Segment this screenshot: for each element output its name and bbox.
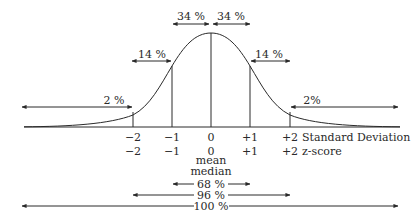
sd-tick-plus-1: +1 <box>242 131 258 144</box>
z-tick-plus-2: +2 <box>282 145 298 158</box>
sd-tick-minus-2: −2 <box>125 131 141 144</box>
coverage-100-label: 100 % <box>194 200 229 213</box>
z-tick-plus-1: +1 <box>242 145 258 158</box>
sd-tick-minus-1: −1 <box>164 131 180 144</box>
normal-distribution-diagram: 34 % 34 % 14 % 14 % 2 % 2% −2 −1 0 +1 +2… <box>0 0 419 224</box>
band-label-mid-left: 14 % <box>138 48 166 61</box>
bell-curve <box>24 33 400 127</box>
band-label-tail-right: 2% <box>303 94 320 107</box>
band-label-center-right: 34 % <box>217 10 245 23</box>
band-label-tail-left: 2 % <box>104 94 125 107</box>
z-tick-minus-2: −2 <box>125 145 141 158</box>
z-score-label: z-score <box>302 145 342 158</box>
median-label: median <box>190 165 231 178</box>
z-tick-minus-1: −1 <box>164 145 180 158</box>
sd-tick-plus-2: +2 <box>282 131 298 144</box>
band-label-mid-right: 14 % <box>255 48 283 61</box>
band-label-center-left: 34 % <box>177 10 205 23</box>
sd-tick-zero: 0 <box>208 131 215 144</box>
standard-deviation-label: Standard Deviation <box>302 131 410 144</box>
